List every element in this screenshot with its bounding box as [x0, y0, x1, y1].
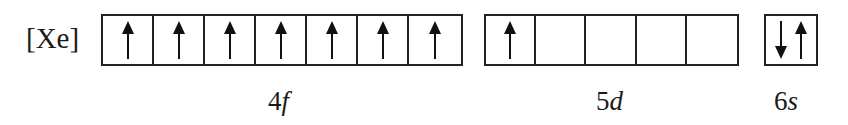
down-arrow-icon — [775, 21, 787, 59]
orbital-box — [409, 16, 460, 64]
orbital-box-empty — [536, 16, 586, 64]
subshell-label-5d: 5d — [596, 86, 623, 117]
up-arrow-icon — [429, 21, 441, 59]
up-arrow-icon — [795, 21, 807, 59]
orbital-box-empty — [637, 16, 687, 64]
orbital-box-empty — [586, 16, 636, 64]
orbital-box — [766, 16, 816, 64]
subshell-5d-boxes — [484, 14, 739, 66]
up-arrow-icon — [224, 21, 236, 59]
up-arrow-icon — [504, 21, 516, 59]
up-arrow-icon — [122, 21, 134, 59]
subshell-6s-boxes — [764, 14, 818, 66]
up-arrow-icon — [275, 21, 287, 59]
subshell-label-6s: 6s — [774, 86, 798, 117]
up-arrow-icon — [173, 21, 185, 59]
orbital-box — [486, 16, 536, 64]
orbital-box — [307, 16, 358, 64]
orbital-box — [256, 16, 307, 64]
orbital-box — [205, 16, 256, 64]
orbital-box — [154, 16, 205, 64]
orbital-box-empty — [687, 16, 737, 64]
orbital-box — [358, 16, 409, 64]
subshell-label-4f: 4f — [268, 86, 289, 117]
up-arrow-icon — [377, 21, 389, 59]
up-arrow-icon — [326, 21, 338, 59]
noble-gas-core-label: [Xe] — [26, 18, 79, 58]
orbital-box — [103, 16, 154, 64]
subshell-4f-boxes — [101, 14, 463, 66]
